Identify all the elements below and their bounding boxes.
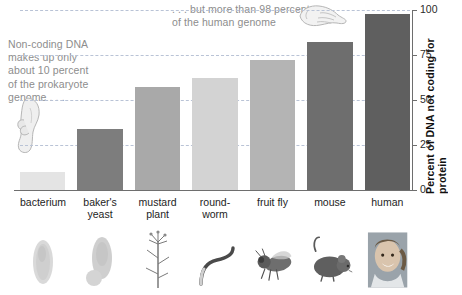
bar-slot	[192, 10, 237, 190]
y-axis-tick	[412, 145, 417, 146]
organism-images	[20, 228, 410, 290]
category-labels: bacteriumbaker's yeastmustard plantround…	[20, 196, 410, 220]
y-axis-tick	[412, 190, 417, 191]
x-axis-line	[14, 190, 414, 191]
bar-series	[20, 10, 410, 190]
category-label: baker's yeast	[77, 196, 122, 220]
category-label: fruit fly	[250, 196, 295, 220]
bar-slot	[77, 10, 122, 190]
category-label: mouse	[307, 196, 352, 220]
bar	[20, 172, 65, 190]
bar	[365, 14, 410, 190]
bar-slot	[20, 10, 65, 190]
bar-chart-figure: Non-coding DNA makes up only about 10 pe…	[0, 0, 462, 295]
bar	[250, 60, 295, 190]
category-label: round- worm	[192, 196, 237, 220]
bar	[307, 42, 352, 190]
mustard-plant-image	[135, 228, 180, 290]
y-axis-tick-label: 100	[420, 3, 438, 15]
fruit-fly-image	[250, 228, 295, 290]
bar	[192, 78, 237, 190]
category-label: mustard plant	[135, 196, 180, 220]
category-label: bacterium	[20, 196, 65, 220]
y-axis-tick	[412, 100, 417, 101]
y-axis-tick	[412, 10, 417, 11]
bar-slot	[365, 10, 410, 190]
bar-slot	[307, 10, 352, 190]
human-image	[365, 228, 410, 290]
bar-slot	[250, 10, 295, 190]
bar	[77, 129, 122, 190]
plot-area	[20, 10, 410, 190]
bacterium-image	[20, 228, 65, 290]
bar	[135, 87, 180, 190]
roundworm-image	[192, 228, 237, 290]
mouse-image	[307, 228, 352, 290]
y-axis-tick-label: 25	[420, 138, 432, 150]
y-axis-tick-label: 0	[420, 183, 426, 195]
bar-slot	[135, 10, 180, 190]
yeast-image	[77, 228, 122, 290]
y-axis-tick-label: 50	[420, 93, 432, 105]
category-label: human	[365, 196, 410, 220]
y-axis-tick-label: 75	[420, 48, 432, 60]
y-axis-tick	[412, 55, 417, 56]
